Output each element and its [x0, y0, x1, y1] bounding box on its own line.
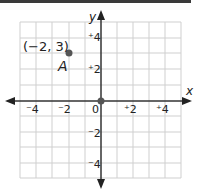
point-a-label: A	[58, 59, 68, 73]
origin-label: 0	[92, 104, 99, 115]
x-axis-right-arrow	[182, 97, 192, 105]
x-tick-label: ⁻4	[26, 104, 39, 115]
x-tick-label: ⁻2	[58, 104, 71, 115]
x-tick-label: ⁺2	[124, 104, 137, 115]
x-tick-label: ⁺4	[156, 104, 169, 115]
y-tick-label: ⁻2	[88, 128, 101, 139]
y-tick-label: ⁻4	[88, 159, 101, 170]
y-axis-label: y	[89, 11, 96, 23]
point-a-coordinates: (−2, 3)	[23, 40, 69, 53]
y-axis-down-arrow	[97, 179, 105, 189]
x-axis-left-arrow	[5, 97, 15, 105]
y-axis-up-arrow	[97, 10, 105, 20]
y-tick-label: ⁺2	[88, 64, 101, 75]
x-axis-label: x	[186, 85, 193, 97]
y-tick-label: ⁺4	[88, 32, 101, 43]
